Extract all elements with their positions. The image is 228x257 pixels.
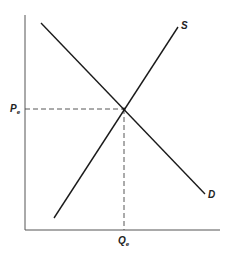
- demand-label: D: [208, 189, 215, 200]
- supply-label: S: [181, 20, 188, 31]
- equilibrium-point: [123, 108, 126, 111]
- quantity-label: Qe: [118, 235, 130, 247]
- price-label: Pe: [10, 103, 21, 115]
- supply-demand-chart: S D Pe Qe: [0, 0, 228, 257]
